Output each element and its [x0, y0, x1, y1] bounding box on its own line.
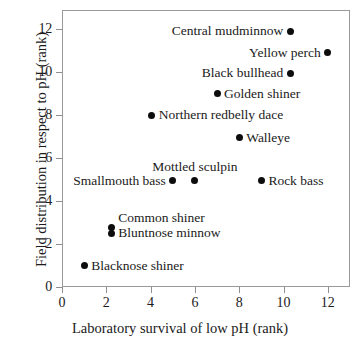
data-point-label: Central mudminnow — [172, 24, 283, 38]
data-point — [214, 90, 221, 97]
data-point-label: Northern redbelly dace — [159, 108, 283, 122]
x-tick — [62, 287, 63, 293]
y-tick — [56, 29, 62, 30]
x-tick-label: 6 — [180, 296, 210, 310]
x-tick — [151, 287, 152, 293]
y-tick — [56, 158, 62, 159]
data-point — [236, 134, 243, 141]
data-point-label: Walleye — [246, 131, 290, 145]
y-tick — [56, 244, 62, 245]
data-point-label: Smallmouth bass — [73, 174, 166, 188]
data-point-label: Yellow perch — [249, 46, 321, 60]
y-tick — [56, 72, 62, 73]
data-point-label: Mottled sculpin — [152, 160, 237, 174]
x-axis-title: Laboratory survival of low pH (rank) — [0, 320, 360, 337]
x-tick — [328, 287, 329, 293]
y-tick — [56, 201, 62, 202]
data-point-label: Blacknose shiner — [91, 259, 184, 273]
data-point — [108, 230, 115, 237]
data-point — [81, 262, 88, 269]
data-point — [148, 112, 155, 119]
y-tick-label-text: 0 — [26, 280, 52, 294]
data-point-label: Common shiner — [118, 211, 205, 225]
x-tick — [284, 287, 285, 293]
scatter-plot-figure: 024681012 024681012 Central mudminnowYel… — [0, 0, 360, 345]
y-tick-label: 0 — [22, 280, 52, 294]
data-point-label: Black bullhead — [202, 66, 283, 80]
x-tick-label: 0 — [47, 296, 77, 310]
x-tick-label: 4 — [136, 296, 166, 310]
x-tick-label: 2 — [91, 296, 121, 310]
x-tick-label: 8 — [224, 296, 254, 310]
x-tick-label: 12 — [313, 296, 343, 310]
data-point-label: Rock bass — [268, 174, 323, 188]
data-point-label: Golden shiner — [224, 87, 300, 101]
data-point — [287, 70, 294, 77]
y-tick — [56, 115, 62, 116]
x-tick — [106, 287, 107, 293]
data-point — [287, 28, 294, 35]
x-tick — [239, 287, 240, 293]
data-point-label: Bluntnose minnow — [118, 226, 220, 240]
x-tick-label: 10 — [269, 296, 299, 310]
y-axis-title: Field distribution in respect to pH (ran… — [33, 25, 50, 275]
x-tick — [195, 287, 196, 293]
